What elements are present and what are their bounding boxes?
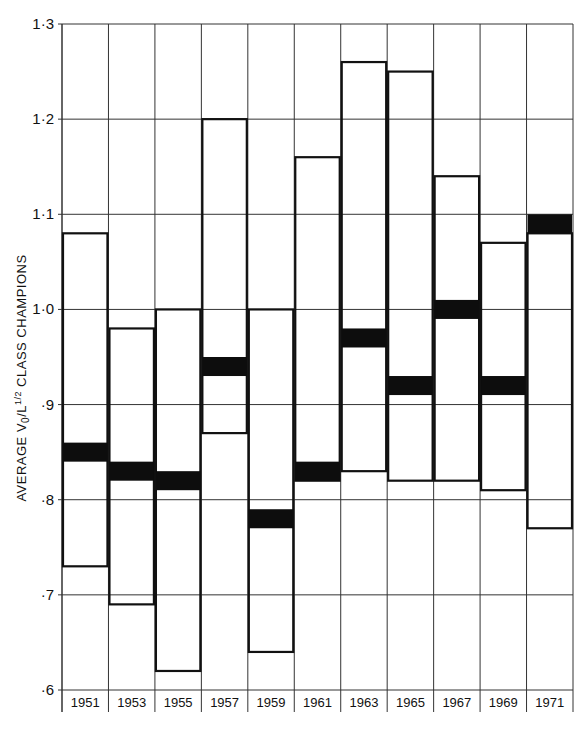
average-band-1951	[63, 443, 107, 462]
y-label-sup: 1/2	[13, 391, 23, 405]
range-bar-1957	[202, 119, 246, 433]
y-tick-label: ·9	[41, 396, 54, 413]
grid-lines	[58, 24, 573, 712]
y-tick-label: ·6	[41, 681, 54, 698]
x-tick-label: 1971	[535, 695, 564, 710]
range-chart: ·6·7·8·91·01·11·21·3 1951195319551957195…	[0, 0, 585, 735]
x-tick-label: 1953	[117, 695, 146, 710]
x-axis-labels: 1951195319551957195919611963196519671969…	[71, 695, 564, 710]
x-tick-label: 1961	[303, 695, 332, 710]
x-tick-label: 1959	[257, 695, 286, 710]
y-tick-label: 1·2	[32, 110, 54, 127]
range-bar-1965	[388, 72, 432, 481]
range-bar-1971	[528, 233, 572, 528]
y-tick-label: 1·0	[32, 300, 54, 317]
range-bar-1961	[295, 157, 339, 480]
y-axis-label: AVERAGE V0/L1/2 CLASS CHAMPIONS	[13, 254, 32, 501]
x-tick-label: 1957	[210, 695, 239, 710]
x-tick-label: 1969	[489, 695, 518, 710]
range-bar-1951	[63, 233, 107, 566]
average-band-1969	[481, 376, 525, 395]
y-tick-label: ·7	[41, 586, 54, 603]
average-band-1971	[528, 214, 572, 233]
y-tick-label: 1·1	[32, 205, 54, 222]
average-band-1967	[435, 300, 479, 319]
range-bar-1967	[435, 176, 479, 480]
y-label-mid: /L	[14, 405, 29, 417]
average-band-1961	[295, 462, 339, 481]
average-band-1957	[202, 357, 246, 376]
average-band-1959	[249, 509, 293, 528]
range-bar-1955	[156, 309, 200, 671]
range-bar-1959	[249, 309, 293, 652]
x-tick-label: 1965	[396, 695, 425, 710]
y-label-post: CLASS CHAMPIONS	[14, 254, 29, 391]
average-band-1963	[342, 328, 386, 347]
x-tick-label: 1963	[349, 695, 378, 710]
y-label-sub: 0	[20, 417, 31, 423]
average-band-1965	[388, 376, 432, 395]
range-bar-1963	[342, 62, 386, 471]
x-tick-label: 1955	[164, 695, 193, 710]
range-bars	[63, 62, 572, 671]
y-tick-label: 1·3	[32, 15, 54, 32]
range-bar-1969	[481, 243, 525, 490]
y-label-pre: AVERAGE V	[14, 423, 29, 502]
average-band-1953	[109, 462, 153, 481]
y-tick-label: ·8	[41, 491, 54, 508]
x-tick-label: 1967	[442, 695, 471, 710]
average-band-1955	[156, 471, 200, 490]
y-axis-ticks: ·6·7·8·91·01·11·21·3	[32, 15, 54, 698]
x-tick-label: 1951	[71, 695, 100, 710]
